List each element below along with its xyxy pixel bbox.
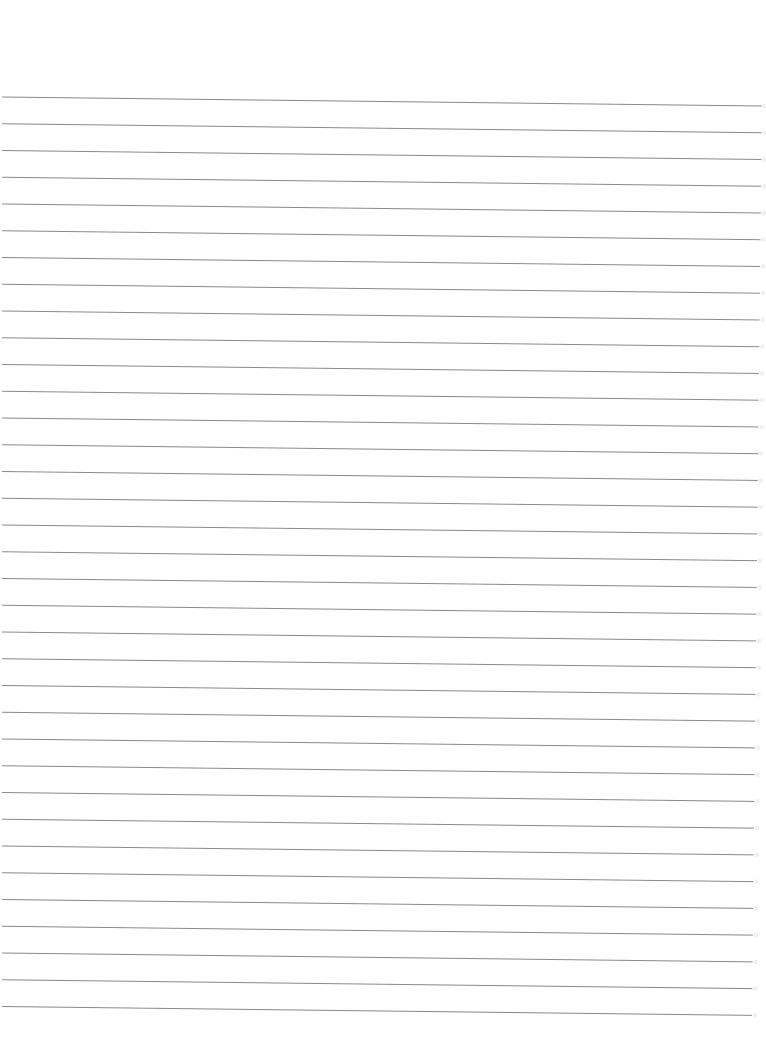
ruled-line	[2, 712, 755, 721]
line-end-shadow	[759, 478, 763, 482]
ruled-line	[2, 980, 752, 989]
ruled-line	[2, 525, 757, 534]
line-end-shadow	[757, 639, 761, 643]
ruled-line	[2, 445, 758, 454]
line-end-shadow	[760, 398, 764, 402]
line-end-shadow	[757, 612, 761, 616]
line-end-shadow	[758, 559, 762, 563]
line-end-shadow	[762, 238, 766, 242]
line-end-shadow	[756, 719, 760, 723]
ruled-line	[2, 766, 755, 775]
ruled-line	[2, 1007, 752, 1016]
ruled-line	[2, 873, 753, 882]
line-end-shadow	[762, 211, 766, 215]
line-end-shadow	[761, 264, 765, 268]
line-end-shadow	[758, 585, 762, 589]
ruled-line	[2, 231, 761, 240]
ruled-line	[2, 284, 760, 293]
line-end-shadow	[759, 505, 763, 509]
ruled-line	[2, 846, 754, 855]
ruled-line	[2, 579, 757, 588]
line-end-shadow	[762, 184, 766, 188]
ruled-line	[2, 258, 760, 267]
ruled-line	[2, 311, 760, 320]
line-end-shadow	[753, 987, 757, 991]
ruled-line	[2, 739, 755, 748]
ruled-line	[2, 659, 756, 668]
line-end-shadow	[754, 880, 758, 884]
ruled-line	[2, 605, 756, 614]
ruled-line	[2, 151, 761, 160]
ruled-line	[2, 819, 754, 828]
line-end-shadow	[754, 960, 758, 964]
ruled-line	[2, 177, 761, 186]
line-end-shadow	[759, 425, 763, 429]
lined-paper-page	[0, 0, 766, 1059]
ruled-lines	[0, 0, 766, 1059]
line-end-shadow	[755, 799, 759, 803]
line-end-shadow	[754, 906, 758, 910]
ruled-line	[2, 365, 759, 374]
ruled-line	[2, 498, 758, 507]
ruled-line	[2, 338, 759, 347]
line-end-shadow	[761, 318, 765, 322]
line-end-shadow	[757, 692, 761, 696]
line-end-shadow	[759, 452, 763, 456]
ruled-line	[2, 953, 753, 962]
ruled-line	[2, 124, 762, 133]
ruled-line	[2, 418, 758, 427]
line-end-shadow	[756, 746, 760, 750]
ruled-line	[2, 472, 758, 481]
ruled-line	[2, 793, 754, 802]
line-end-shadow	[756, 773, 760, 777]
line-end-shadow	[753, 1013, 757, 1017]
line-end-shadow	[757, 666, 761, 670]
ruled-line	[2, 97, 762, 106]
ruled-line	[2, 391, 759, 400]
line-end-shadow	[761, 291, 765, 295]
ruled-line	[2, 552, 757, 561]
line-end-shadow	[760, 345, 764, 349]
line-end-shadow	[760, 371, 764, 375]
ruled-line	[2, 686, 756, 695]
line-end-shadow	[758, 532, 762, 536]
line-end-shadow	[755, 826, 759, 830]
line-end-shadow	[755, 853, 759, 857]
line-end-shadow	[754, 933, 758, 937]
ruled-line	[2, 632, 756, 641]
ruled-line	[2, 926, 753, 935]
line-end-shadow	[762, 157, 766, 161]
ruled-line	[2, 204, 761, 213]
ruled-line	[2, 900, 753, 909]
